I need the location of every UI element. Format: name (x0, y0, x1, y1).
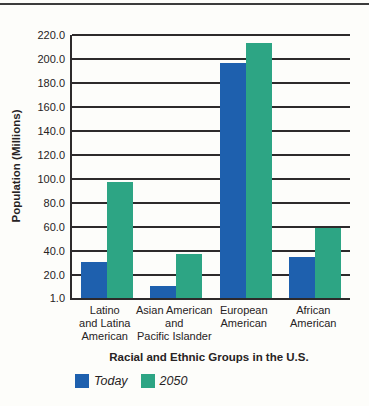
y-tick-label-100.0: 100.0 (37, 173, 65, 185)
x-axis-labels: Latinoand LatinaAmericanAsian Americanan… (70, 304, 348, 346)
category-label-line: Asian American (136, 304, 212, 317)
population-bar-chart-figure: Population (Millions) 220.0200.0180.0160… (0, 0, 369, 406)
category-label-line: African (290, 304, 336, 317)
y-tick-label-40.0: 40.0 (44, 245, 65, 257)
gridline-100.0 (72, 178, 350, 180)
category-label-line: and Latina (79, 317, 130, 330)
y-tick-label-80.0: 80.0 (44, 197, 65, 209)
category-label-line: American (220, 317, 268, 330)
legend: Today2050 (75, 374, 187, 388)
y-tick-label-60.0: 60.0 (44, 221, 65, 233)
y-axis-title: Population (Millions) (10, 109, 22, 222)
top-border-rule (0, 3, 369, 5)
y-tick-label-120.0: 120.0 (37, 149, 65, 161)
category-label-line: Pacific Islander (136, 330, 212, 343)
y-tick-label-140.0: 140.0 (37, 125, 65, 137)
legend-swatch-2050 (141, 374, 155, 388)
category-label-1: Asian AmericanandPacific Islander (136, 304, 212, 342)
category-label-0: Latinoand LatinaAmerican (79, 304, 130, 342)
bar-2050-group0 (107, 182, 133, 298)
gridline-180.0 (72, 82, 350, 84)
bar-2050-group2 (246, 43, 272, 298)
category-label-line: Latino (79, 304, 130, 317)
category-label-3: AfricanAmerican (290, 304, 336, 330)
y-tick-label-180.0: 180.0 (37, 77, 65, 89)
bar-2050-group1 (176, 254, 202, 298)
gridline-140.0 (72, 130, 350, 132)
gridline-200.0 (72, 58, 350, 60)
y-tick-label-220.0: 220.0 (37, 29, 65, 41)
legend-swatch-today (75, 374, 89, 388)
gridline-120.0 (72, 154, 350, 156)
gridline-160.0 (72, 106, 350, 108)
legend-item-2050: 2050 (141, 374, 188, 388)
category-label-line: American (79, 330, 130, 343)
legend-label-2050: 2050 (160, 374, 188, 388)
plot-area: 220.0200.0180.0160.0140.0120.0100.080.06… (70, 35, 350, 300)
category-label-2: EuropeanAmerican (220, 304, 268, 330)
bar-today-group0 (81, 262, 107, 298)
legend-item-today: Today (75, 374, 128, 388)
bar-today-group2 (220, 63, 246, 298)
bar-today-group1 (150, 286, 176, 298)
y-tick-label-200.0: 200.0 (37, 53, 65, 65)
legend-label-today: Today (94, 374, 128, 388)
category-label-line: and (136, 317, 212, 330)
category-label-line: European (220, 304, 268, 317)
x-axis-title: Racial and Ethnic Groups in the U.S. (70, 351, 348, 363)
gridline-220.0 (72, 34, 350, 36)
bar-2050-group3 (315, 228, 341, 298)
y-tick-label-1.0: 1.0 (50, 292, 65, 304)
category-label-line: American (290, 317, 336, 330)
y-tick-label-20.0: 20.0 (44, 269, 65, 281)
bar-today-group3 (289, 257, 315, 298)
y-tick-label-160.0: 160.0 (37, 101, 65, 113)
